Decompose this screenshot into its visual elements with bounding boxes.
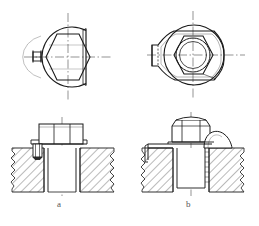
locking-pin-a <box>33 144 42 160</box>
section-view-a <box>11 117 114 196</box>
locking-key-tab-a <box>33 51 41 63</box>
hex-nut-body-b <box>172 120 210 142</box>
figure-caption-a: a <box>57 199 61 209</box>
bolt-shank-a <box>48 148 76 192</box>
stud-shank-b <box>177 148 205 188</box>
figure-caption-b: b <box>186 199 191 209</box>
housing-hatch-left-b <box>142 148 173 192</box>
plan-view-a <box>23 13 112 101</box>
section-view-b <box>141 112 244 196</box>
nut-top-arc-b <box>176 117 206 120</box>
plan-view-b <box>147 11 245 100</box>
thread-ticks-b <box>205 152 209 182</box>
drawing-sheet: a b <box>0 0 259 226</box>
housing-hatch-right-b <box>209 148 244 192</box>
engineering-drawing-canvas <box>0 0 259 226</box>
housing-hatch-right-a <box>80 148 114 192</box>
tab-washer-inner-b <box>161 34 221 77</box>
